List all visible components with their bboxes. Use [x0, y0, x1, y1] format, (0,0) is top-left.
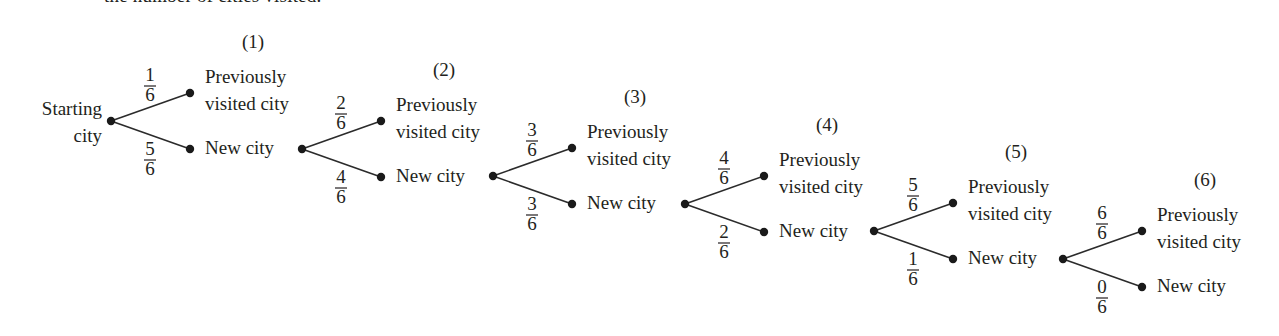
clipped-caption-text: the number of cities visited. [104, 0, 321, 7]
fraction-denominator: 6 [527, 213, 537, 234]
tree-stages: 1656(1)Previouslyvisited cityNew city264… [107, 31, 1242, 317]
probability-previously-visited: 26 [335, 92, 347, 133]
previously-visited-label-line-2: visited city [396, 121, 480, 142]
tree-svg: Starting city 1656(1)Previouslyvisited c… [0, 0, 1279, 336]
previously-visited-label-line-2: visited city [587, 148, 671, 169]
root-label-line-1: Starting [42, 98, 103, 119]
previously-visited-label-line-1: Previously [1157, 204, 1239, 225]
fraction-denominator: 6 [145, 158, 155, 179]
previously-visited-label-line-1: Previously [779, 149, 861, 170]
previously-visited-label-line-1: Previously [587, 121, 669, 142]
stage-2: 2646(2)Previouslyvisited cityNew city [298, 59, 481, 207]
fraction-denominator: 6 [336, 112, 346, 133]
leaf-node-icon [186, 145, 194, 153]
step-number-label: (3) [624, 86, 646, 108]
new-city-label: New city [396, 165, 466, 186]
fraction-numerator: 1 [908, 248, 918, 269]
leaf-node-icon [1138, 227, 1146, 235]
probability-tree-diagram: the number of cities visited. Starting c… [0, 0, 1279, 336]
fraction-numerator: 5 [908, 174, 918, 195]
previously-visited-label-line-2: visited city [205, 93, 289, 114]
step-number-label: (6) [1194, 169, 1216, 191]
branch-node-icon [870, 227, 878, 235]
probability-new-city: 56 [144, 138, 156, 179]
fraction-numerator: 3 [527, 193, 537, 214]
previously-visited-label-line-1: Previously [396, 94, 478, 115]
fraction-denominator: 6 [1097, 296, 1107, 317]
leaf-node-icon [760, 228, 768, 236]
probability-new-city: 26 [718, 221, 730, 262]
probability-previously-visited: 36 [526, 119, 538, 160]
fraction-denominator: 6 [527, 139, 537, 160]
fraction-denominator: 6 [719, 167, 729, 188]
probability-new-city: 06 [1096, 276, 1108, 317]
step-number-label: (5) [1005, 141, 1027, 163]
fraction-denominator: 6 [908, 194, 918, 215]
probability-new-city: 46 [335, 166, 347, 207]
fraction-numerator: 5 [145, 138, 155, 159]
stage-6: 6606(6)Previouslyvisited cityNew city [1059, 169, 1242, 317]
probability-previously-visited: 56 [907, 174, 919, 215]
branch-node-icon [107, 117, 115, 125]
fraction-numerator: 6 [1097, 202, 1107, 223]
previously-visited-label-line-1: Previously [205, 66, 287, 87]
branch-node-icon [298, 145, 306, 153]
stage-1: 1656(1)Previouslyvisited cityNew city [107, 31, 290, 179]
step-number-label: (2) [433, 59, 455, 81]
fraction-numerator: 2 [719, 221, 729, 242]
branch-node-icon [681, 200, 689, 208]
previously-visited-label-line-2: visited city [1157, 231, 1241, 252]
stage-3: 3636(3)Previouslyvisited cityNew city [489, 86, 672, 234]
probability-previously-visited: 46 [718, 147, 730, 188]
fraction-denominator: 6 [336, 186, 346, 207]
fraction-numerator: 4 [719, 147, 729, 168]
probability-previously-visited: 16 [144, 64, 156, 105]
previously-visited-label-line-1: Previously [968, 176, 1050, 197]
new-city-label: New city [587, 192, 657, 213]
probability-new-city: 36 [526, 193, 538, 234]
fraction-numerator: 1 [145, 64, 155, 85]
fraction-numerator: 2 [336, 92, 346, 113]
leaf-node-icon [760, 172, 768, 180]
step-number-label: (1) [242, 31, 264, 53]
leaf-node-icon [1138, 283, 1146, 291]
leaf-node-icon [949, 199, 957, 207]
previously-visited-label-line-2: visited city [968, 203, 1052, 224]
branch-node-icon [489, 172, 497, 180]
branch-node-icon [1059, 255, 1067, 263]
previously-visited-label-line-2: visited city [779, 176, 863, 197]
leaf-node-icon [568, 200, 576, 208]
leaf-node-icon [377, 117, 385, 125]
fraction-numerator: 3 [527, 119, 537, 140]
leaf-node-icon [949, 255, 957, 263]
fraction-numerator: 4 [336, 166, 346, 187]
new-city-label: New city [968, 247, 1038, 268]
leaf-node-icon [186, 89, 194, 97]
fraction-denominator: 6 [719, 241, 729, 262]
new-city-label: New city [779, 220, 849, 241]
fraction-denominator: 6 [1097, 222, 1107, 243]
fraction-denominator: 6 [145, 84, 155, 105]
root-label-line-2: city [74, 125, 103, 146]
new-city-label: New city [1157, 275, 1227, 296]
leaf-node-icon [568, 144, 576, 152]
leaf-node-icon [377, 173, 385, 181]
fraction-denominator: 6 [908, 268, 918, 289]
stage-5: 5616(5)Previouslyvisited cityNew city [870, 141, 1053, 289]
fraction-numerator: 0 [1097, 276, 1107, 297]
step-number-label: (4) [816, 114, 838, 136]
stage-4: 4626(4)Previouslyvisited cityNew city [681, 114, 864, 262]
probability-new-city: 16 [907, 248, 919, 289]
starting-city-label: Starting city [42, 98, 103, 146]
new-city-label: New city [205, 137, 275, 158]
probability-previously-visited: 66 [1096, 202, 1108, 243]
